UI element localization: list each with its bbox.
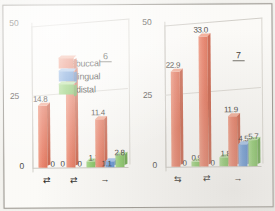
value-label-distal-r3: 5.7 [248,132,258,141]
value-label-lingual-r1: 0 [182,159,186,168]
legend-label-distal: distal [76,84,96,94]
panel-left-ytick-50: 50 [9,18,18,28]
bar-lingual-r3 [238,144,247,166]
bar-buccal-r2 [198,36,208,166]
panel-right-ytick-50: 50 [142,17,151,27]
group-marker-r3: → [234,174,242,183]
value-label-buccal-r1: 22.9 [166,61,180,70]
legend-label-lingual: lingual [76,71,101,81]
value-label-buccal-l1: 14.8 [33,95,47,104]
panel-right-tooth-number: 7 [233,51,245,61]
value-label-buccal-r3: 11.9 [224,105,238,114]
value-label-lingual-l1: 0 [50,160,54,169]
panel-left-ytick-25: 25 [10,91,19,101]
legend-row-distal: distal [59,82,101,95]
legend-label-buccal: buccal [76,58,101,68]
value-label-buccal-l3: 11.4 [91,108,105,117]
bar-distal-r3 [248,140,257,166]
value-label-lingual-l3: 1.1 [101,159,111,168]
panel-left-ytick-0: 0 [19,161,24,171]
plot-stage: 50 25 0 6 14.8 0 0 ⇄ [0,0,275,211]
bar-buccal-r1 [171,72,181,167]
group-marker-l1: ⇄ [43,176,50,185]
value-label-lingual-r2: 0 [210,158,214,167]
scanned-figure-page: 50 25 0 6 14.8 0 0 ⇄ [0,0,275,211]
value-label-lingual-l2: 0 [77,159,81,168]
panel-right-ytick-0: 0 [152,160,157,170]
legend-swatch-lingual-icon [59,70,74,81]
value-label-distal-l1: 0 [60,160,64,169]
value-label-buccal-r2: 33.0 [193,25,207,34]
chart-panel-left: 50 25 0 6 14.8 0 0 ⇄ [1,0,140,211]
group-marker-r1: ⇆ [174,175,181,184]
group-marker-l2: ⇄ [70,175,77,184]
bar-buccal-r3 [228,116,237,166]
bar-distal-r2 [219,157,228,166]
legend-swatch-distal-icon [59,83,74,94]
value-label-lingual-r3: 4.5 [238,134,248,143]
legend: buccal lingual distal [59,56,101,95]
group-marker-r2: ⇄ [203,174,210,183]
chart-panel-right: 50 25 0 7 22.9 0 0.9 ⇆ [134,0,273,211]
group-marker-l3: → [101,175,109,184]
panel-left-tooth-number: 6 [100,52,112,62]
panel-right-ytick-25: 25 [143,90,152,100]
bar-buccal-l1 [38,106,47,168]
value-label-distal-l3: 2.8 [114,148,124,157]
legend-swatch-buccal-icon [59,58,74,69]
